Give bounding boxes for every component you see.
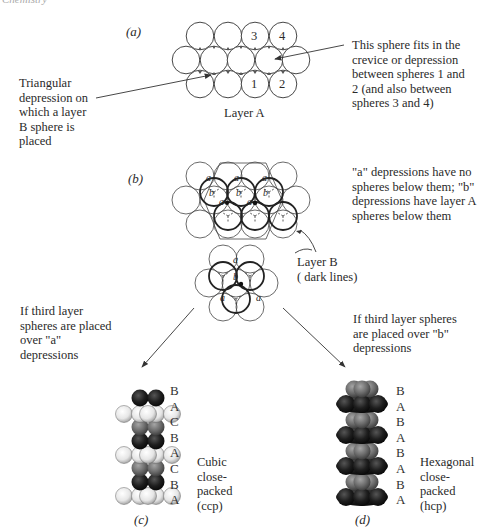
depression-b-label: b [263, 187, 268, 198]
depression-a-label: a [256, 292, 261, 303]
depression-a-label: a [262, 172, 267, 183]
depressions-note: "a" depressions have nospheres below the… [352, 165, 477, 223]
depression-b-label: b [209, 187, 214, 198]
panel-b-label: (b) [128, 171, 143, 187]
panel-c-label: (c) [134, 512, 148, 528]
ccp-description: Cubicclose-packed(ccp) [197, 455, 232, 513]
arrow-to-ccp [142, 308, 194, 367]
depression-a-label: a [247, 196, 252, 207]
depression-a-label: a [233, 254, 238, 265]
layer-a-hex-array [172, 162, 310, 239]
depression-b-label: b [236, 187, 241, 198]
layer-b-label: Layer B( dark lines) [297, 255, 357, 284]
arrow-to-hcp [283, 308, 345, 367]
hcp-stack [336, 381, 388, 507]
depression-a-label: a [206, 172, 211, 183]
sphere-number-3: 3 [251, 29, 257, 44]
hcp-description: Hexagonalclose-packed(hcp) [420, 455, 474, 513]
third-layer-a-note: If third layerspheres are placedover "a"… [20, 304, 112, 362]
layer-a-spheres [172, 22, 310, 98]
sphere-number-2: 2 [279, 77, 285, 92]
ccp-layer-sequence: BACBACBA [170, 383, 179, 508]
depression-b-label: b [233, 271, 238, 282]
triangular-depression-note: Triangulardepression onwhich a layerB sp… [19, 76, 88, 149]
crevice-note: This sphere fits in thecrevice or depres… [352, 38, 465, 111]
panel-d-label: (d) [355, 512, 370, 528]
depression-a-label: a [234, 172, 239, 183]
depression-a-label: a [219, 196, 224, 207]
sphere-number-1: 1 [251, 77, 257, 92]
hcp-layer-sequence: BABABABA [396, 383, 405, 508]
layer-a-title: Layer A [224, 106, 265, 121]
third-layer-b-note: If third layer spheresare placed over "b… [353, 312, 457, 356]
depression-a-label: a [220, 292, 225, 303]
sphere-number-4: 4 [279, 29, 285, 44]
